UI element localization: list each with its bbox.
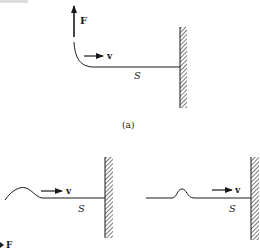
force-arrow-icon [0,242,4,248]
string-label: S [229,203,236,214]
string-label: S [134,70,141,81]
velocity-label: v [106,51,113,61]
wall-icon [251,157,259,240]
panel-caption: (a) [122,120,134,130]
panel-b-right: v S [146,157,259,240]
string-line [74,42,180,67]
force-label: F [80,15,87,26]
string-line [5,188,105,201]
wall-icon [180,27,187,108]
force-label: F [6,240,13,249]
cropped-header-text [0,0,28,3]
string-label: S [78,203,85,214]
wall-icon [105,157,113,238]
diagram-canvas: F v S (a) v S F v S [0,0,260,249]
panel-a: F v S (a) [74,6,187,130]
panel-b-left: v S F [0,157,113,249]
velocity-label: v [65,186,72,196]
velocity-label: v [234,185,241,195]
